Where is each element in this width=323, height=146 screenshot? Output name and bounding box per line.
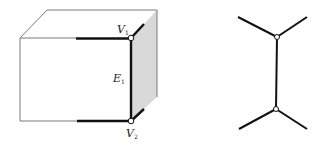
graph-upper-vertex	[275, 35, 280, 40]
label-v1: V1	[117, 23, 129, 36]
label-v2: V2	[126, 127, 138, 140]
graph-lower-left-edge	[239, 109, 276, 129]
shaded-right-face	[131, 10, 157, 121]
top-left-depth-edge	[20, 10, 47, 38]
diagram-canvas: V1 E1 V2	[0, 0, 323, 146]
vertex-v2	[128, 118, 134, 124]
graph-lower-vertex	[274, 107, 279, 112]
cube-figure: V1 E1 V2	[20, 10, 157, 140]
graph-figure	[238, 17, 307, 129]
graph-central-edge	[276, 37, 277, 109]
graph-upper-right-edge	[277, 17, 307, 37]
graph-lower-right-edge	[276, 109, 307, 129]
label-e1: E1	[112, 72, 125, 85]
vertex-v1	[128, 35, 134, 41]
graph-upper-left-edge	[238, 17, 277, 37]
